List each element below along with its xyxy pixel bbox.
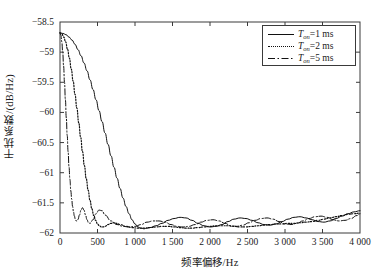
y-tick-label: −58.5 xyxy=(20,17,54,27)
y-tick-label: −62 xyxy=(20,228,54,238)
x-tick-label: 3 000 xyxy=(274,237,295,247)
y-axis-title: 干扰系数/(dB/Hz) xyxy=(2,0,18,233)
y-tick-label: −60.5 xyxy=(20,138,54,148)
x-axis-title: 频率偏移/Hz xyxy=(60,254,360,269)
x-tick-label: 2 000 xyxy=(199,237,220,247)
y-axis-title-text: 干扰系数/(dB/Hz) xyxy=(5,74,16,159)
x-tick-label: 3 500 xyxy=(312,237,333,247)
legend-line-dashdot-icon xyxy=(267,53,295,64)
y-tick-label: −59.5 xyxy=(20,77,54,87)
y-tick-label: −61.5 xyxy=(20,198,54,208)
x-tick-label: 0 xyxy=(58,237,63,247)
legend-label-0: Ton=1 ms xyxy=(295,29,333,39)
y-tick-label: −60 xyxy=(20,107,54,117)
x-tick-label: 4 000 xyxy=(349,237,370,247)
legend-item-1: Ton=2 ms xyxy=(267,40,352,52)
legend-line-dotted-icon xyxy=(267,41,295,52)
legend-line-solid-icon xyxy=(267,29,295,40)
figure: 干扰系数/(dB/Hz) 频率偏移/Hz −58.5−59−59.5−60−60… xyxy=(0,0,378,280)
y-tick-label: −59 xyxy=(20,47,54,57)
x-tick-label: 2 500 xyxy=(237,237,258,247)
x-tick-label: 1 500 xyxy=(162,237,183,247)
y-tick-label: −61 xyxy=(20,168,54,178)
legend-label-1: Ton=2 ms xyxy=(295,41,333,51)
legend-label-2: Ton=5 ms xyxy=(295,53,333,63)
legend-item-0: Ton=1 ms xyxy=(267,28,352,40)
x-tick-label: 1 000 xyxy=(124,237,145,247)
x-tick-label: 500 xyxy=(90,237,104,247)
legend: Ton=1 ms Ton=2 ms Ton=5 ms xyxy=(262,25,356,66)
legend-item-2: Ton=5 ms xyxy=(267,52,352,64)
